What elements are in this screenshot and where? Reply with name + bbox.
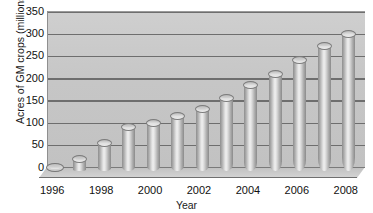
bar-top-ellipse [243, 81, 258, 89]
gridline [48, 34, 365, 36]
bar-top-ellipse-inner [124, 126, 132, 129]
x-tick-label: 2002 [177, 184, 221, 196]
bar-body [122, 127, 135, 171]
bar-2006 [293, 60, 306, 171]
bar-body [244, 85, 257, 171]
bar-top-ellipse-inner [173, 114, 181, 117]
bar-chart: Acres of GM crops (millions) 350 300 250… [0, 0, 373, 213]
bar-top-ellipse-inner [149, 121, 157, 124]
x-tick-label: 2008 [324, 184, 368, 196]
y-tick-label: 350 [12, 6, 44, 17]
bar-body [269, 74, 282, 171]
bar-body [318, 46, 331, 171]
bar-top-ellipse [317, 42, 332, 50]
bar-1996 [47, 163, 63, 172]
bar-2004 [244, 85, 257, 171]
floor-bottom-edge [39, 177, 357, 178]
bar-top-ellipse [146, 119, 161, 127]
bar-1999 [122, 127, 135, 171]
bar-top-ellipse [97, 139, 112, 147]
bar-body [196, 109, 209, 171]
bar-top-ellipse-inner [76, 158, 84, 161]
bar-2005 [269, 74, 282, 171]
bar-top-ellipse [46, 163, 64, 172]
bar-body [147, 123, 160, 171]
bar-2007 [318, 46, 331, 171]
bar-top-ellipse-inner [271, 72, 279, 75]
bar-top-ellipse-inner [100, 141, 108, 144]
bar-body [98, 143, 111, 171]
x-axis-tick-labels: 1996199820002002200420062008 [0, 184, 373, 198]
bar-2008 [342, 34, 355, 171]
bar-top-ellipse [268, 70, 283, 78]
y-tick-label: 200 [12, 73, 44, 84]
bar-top-ellipse-inner [222, 97, 230, 100]
bar-top-ellipse-inner [320, 45, 328, 48]
bar-top-ellipse-inner [345, 32, 353, 35]
bar-body [342, 34, 355, 171]
y-tick-label: 50 [12, 139, 44, 150]
bar-2001 [171, 116, 184, 171]
x-tick-label: 1998 [79, 184, 123, 196]
bar-top-ellipse [341, 30, 356, 38]
y-tick-label: 250 [12, 50, 44, 61]
bar-1998 [98, 143, 111, 171]
x-tick-label: 2000 [128, 184, 172, 196]
bar-top-ellipse-inner [247, 83, 255, 86]
bar-body [171, 116, 184, 171]
x-axis-title: Year [0, 199, 373, 211]
bar-top-ellipse [121, 123, 136, 131]
x-tick-label: 1996 [30, 184, 74, 196]
y-tick-label: 100 [12, 117, 44, 128]
bar-top-ellipse-inner [296, 59, 304, 62]
bar-body [293, 60, 306, 171]
bar-body [220, 98, 233, 171]
y-tick-label: 300 [12, 28, 44, 39]
bar-top-ellipse-inner [50, 166, 60, 169]
bar-2003 [220, 98, 233, 171]
bar-top-ellipse-inner [198, 108, 206, 111]
x-tick-label: 2004 [226, 184, 270, 196]
gridline [48, 12, 365, 14]
bar-2000 [147, 123, 160, 171]
bar-2002 [196, 109, 209, 171]
bar-1997 [73, 159, 86, 171]
bar-top-ellipse [195, 105, 210, 113]
x-tick-label: 2006 [275, 184, 319, 196]
bar-top-ellipse [170, 112, 185, 120]
y-tick-label: 150 [12, 95, 44, 106]
